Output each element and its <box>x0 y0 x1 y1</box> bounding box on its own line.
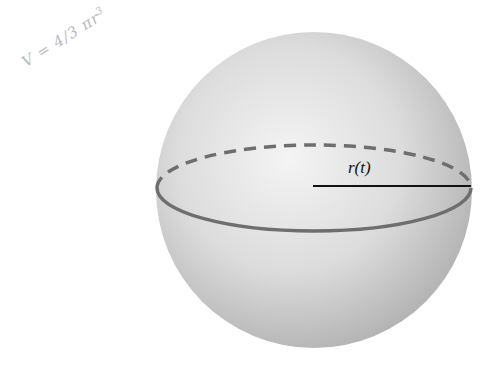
sphere-diagram <box>0 0 490 375</box>
sphere <box>156 32 472 348</box>
radius-label: r(t) <box>348 158 371 178</box>
figure-canvas: r(t) V = 4/3 πr3 <box>0 0 490 375</box>
